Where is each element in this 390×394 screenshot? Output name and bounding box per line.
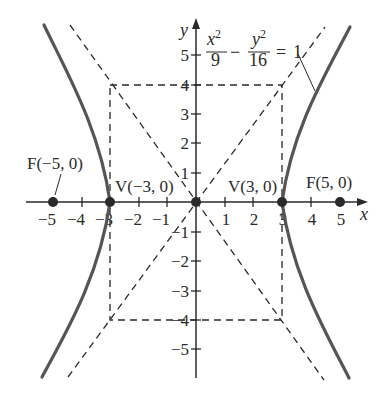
- y-tick-label: −1: [171, 223, 189, 242]
- y-axis-arrow-icon: [192, 18, 200, 29]
- equation-term1-denominator: 9: [211, 50, 220, 70]
- equation-leader: [298, 54, 315, 91]
- vertex-left-label: V(−3, 0): [115, 177, 174, 196]
- vertex-right-point: [277, 197, 287, 207]
- focus-right-point: [335, 197, 345, 207]
- equation-var-x: x: [206, 29, 215, 49]
- x-tick-label: −3: [95, 210, 113, 229]
- center-point: [191, 197, 201, 207]
- equation-var-y: y: [250, 29, 260, 49]
- x-tick-label: −2: [124, 210, 142, 229]
- y-tick-label: 2: [181, 134, 190, 153]
- x-tick-label: −1: [152, 210, 170, 229]
- y-tick-label: −5: [171, 340, 189, 359]
- equation-exp-y: 2: [260, 27, 266, 41]
- vertex-left-point: [105, 197, 115, 207]
- vertex-right-label: V(3, 0): [228, 177, 277, 196]
- focus-left-label: F(−5, 0): [27, 154, 83, 173]
- focus-left-point: [48, 197, 58, 207]
- y-tick-label: −4: [171, 311, 190, 330]
- x-axis-label: x: [359, 204, 368, 224]
- y-axis-label: y: [178, 20, 188, 40]
- hyperbola-diagram: x y −5 −4 −3 −2 −1 1 2 3 4 5: [0, 0, 390, 394]
- focus-left-leader: [55, 174, 61, 195]
- equation-label: x2 9 − y2 16 = 1: [206, 27, 302, 70]
- x-tick-labels: −5 −4 −3 −2 −1 1 2 3 4 5: [38, 210, 345, 229]
- x-tick-label: −5: [38, 210, 56, 229]
- equation-exp-x: 2: [215, 27, 221, 41]
- equation-term2-denominator: 16: [249, 50, 267, 70]
- focus-right-label: F(5, 0): [306, 173, 352, 192]
- y-tick-label: −2: [171, 252, 189, 271]
- x-tick-label: 4: [308, 210, 317, 229]
- x-tick-label: −4: [67, 210, 86, 229]
- y-tick-label: 5: [181, 46, 190, 65]
- y-tick-label: 3: [181, 105, 190, 124]
- x-tick-label: 2: [250, 210, 259, 229]
- equation-operator: −: [230, 42, 240, 62]
- equation-equals: =: [276, 42, 286, 62]
- y-tick-label: 4: [181, 76, 190, 95]
- y-tick-label: −3: [171, 282, 189, 301]
- x-tick-label: 1: [222, 210, 231, 229]
- equation-term2-numerator: y2: [250, 27, 266, 49]
- equation-term1-numerator: x2: [206, 27, 221, 49]
- y-tick-label: 1: [181, 164, 190, 183]
- x-tick-label: 5: [337, 210, 346, 229]
